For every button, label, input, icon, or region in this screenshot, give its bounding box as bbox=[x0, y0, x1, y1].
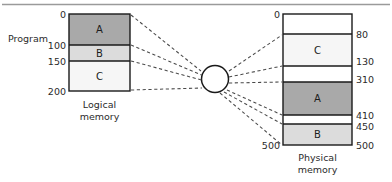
logical-caption-line2: memory bbox=[80, 111, 120, 122]
mapping-lines-left bbox=[131, 15, 202, 90]
physical-caption-line1: Physical bbox=[298, 152, 337, 163]
physical-address-310: 310 bbox=[356, 74, 374, 85]
logical-address-150: 150 bbox=[48, 56, 66, 67]
physical-free-130-310-fill bbox=[283, 66, 352, 82]
physical-address-80: 80 bbox=[356, 29, 368, 40]
physical-free-0-80-fill bbox=[283, 14, 352, 34]
segmentation-diagram: A B C 0 100 150 200 Program Logical memo… bbox=[0, 0, 392, 182]
physical-address-500-right: 500 bbox=[356, 140, 374, 151]
mapping-line-physical-310 bbox=[229, 82, 282, 83]
logical-address-0: 0 bbox=[60, 9, 66, 20]
physical-segment-c-label: C bbox=[314, 45, 321, 56]
mapping-line-physical-130 bbox=[229, 66, 282, 77]
diagram-canvas: A B C 0 100 150 200 Program Logical memo… bbox=[0, 0, 392, 182]
logical-segment-a-label: A bbox=[96, 24, 103, 35]
logical-address-100: 100 bbox=[48, 40, 66, 51]
mapping-line-physical-450 bbox=[224, 92, 282, 124]
relocation-circle-icon bbox=[202, 66, 229, 93]
physical-address-410: 410 bbox=[356, 110, 374, 121]
mapping-line-logical-0 bbox=[131, 15, 201, 71]
physical-free-410-450-fill bbox=[283, 115, 352, 124]
mapping-line-physical-80 bbox=[229, 35, 282, 71]
physical-memory-block: C A B bbox=[283, 14, 352, 145]
program-label: Program bbox=[8, 33, 48, 44]
logical-segment-c-label: C bbox=[96, 71, 103, 82]
physical-segment-a-label: A bbox=[314, 93, 321, 104]
physical-address-130: 130 bbox=[356, 56, 374, 67]
mapping-line-physical-410 bbox=[227, 90, 282, 115]
physical-address-0: 0 bbox=[274, 9, 280, 20]
mapping-lines-right bbox=[220, 35, 282, 145]
physical-caption-line2: memory bbox=[298, 164, 338, 175]
logical-address-200: 200 bbox=[48, 86, 66, 97]
physical-segment-b-label: B bbox=[314, 129, 321, 140]
logical-segment-b-label: B bbox=[96, 48, 103, 59]
physical-address-450: 450 bbox=[356, 121, 374, 132]
physical-address-500-left: 500 bbox=[262, 140, 280, 151]
mapping-line-logical-200 bbox=[131, 88, 202, 90]
logical-caption-line1: Logical bbox=[83, 99, 116, 110]
logical-memory-block: A B C bbox=[69, 14, 130, 91]
